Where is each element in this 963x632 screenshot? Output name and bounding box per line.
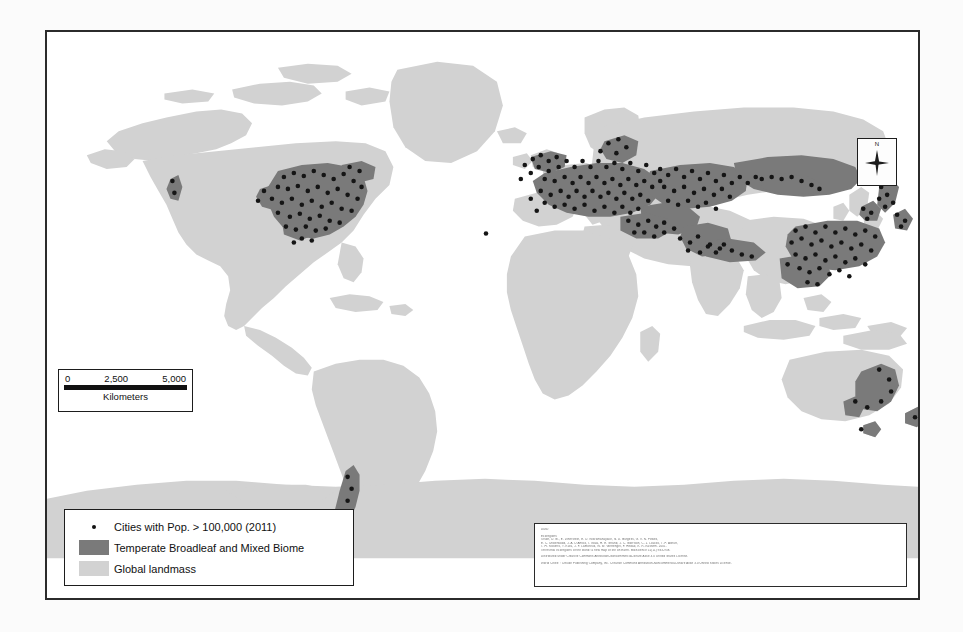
legend-label-cities: Cities with Pop. > 100,000 (2011) <box>114 521 276 533</box>
citation-heading: Data: <box>541 528 900 532</box>
legend-item-landmass: Global landmass <box>74 558 344 579</box>
scale-bar-ticks: 0 2,500 5,000 <box>64 373 187 384</box>
scale-tick-2: 5,000 <box>162 373 186 384</box>
scale-bar: 0 2,500 5,000 Kilometers <box>58 369 193 412</box>
map-legend: Cities with Pop. > 100,000 (2011) Temper… <box>64 509 354 586</box>
biome-swatch-icon <box>79 540 109 555</box>
legend-key-city-dot <box>74 525 114 529</box>
citation-box: Data: Ecoregions Olson, D. M., E. Diners… <box>534 523 907 587</box>
landmass-swatch-icon <box>79 561 109 576</box>
north-arrow: N <box>857 138 897 186</box>
citation-line: World Cities: : Deluxe Publishing Compan… <box>541 562 900 566</box>
legend-key-biome-swatch <box>74 540 114 555</box>
legend-label-biome: Temperate Broadleaf and Mixed Biome <box>114 542 304 554</box>
map-figure: 0 2,500 5,000 Kilometers N Cities with P… <box>45 30 920 600</box>
legend-item-cities: Cities with Pop. > 100,000 (2011) <box>74 516 344 537</box>
scale-tick-0: 0 <box>65 373 70 384</box>
compass-star-icon <box>864 147 890 179</box>
citation-line: Terrestrial ecoregions of the world: a n… <box>541 549 900 553</box>
legend-label-landmass: Global landmass <box>114 563 196 575</box>
citation-line: Distributed under Creative Commons Attri… <box>541 555 900 559</box>
legend-item-biome: Temperate Broadleaf and Mixed Biome <box>74 537 344 558</box>
scale-tick-1: 2,500 <box>104 373 128 384</box>
legend-key-landmass-swatch <box>74 561 114 576</box>
scale-bar-rule <box>64 385 187 390</box>
city-dot-icon <box>92 525 96 529</box>
scale-bar-units: Kilometers <box>64 391 187 402</box>
